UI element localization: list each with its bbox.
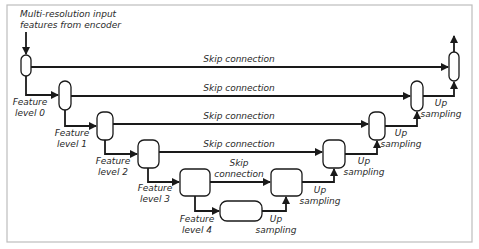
- upsample-arrow-2: [345, 141, 377, 154]
- feature-level-2-line2: level 2: [98, 167, 128, 177]
- feature-level-2-line1: Feature: [96, 156, 131, 166]
- feature-level-1-line1: Feature: [55, 128, 90, 138]
- feature-level-1-node: [97, 112, 113, 140]
- upsampling-3-line1: Up: [314, 185, 327, 195]
- skip-label-3: Skip connection: [203, 139, 275, 149]
- feature-level-3-line2: level 3: [140, 194, 170, 204]
- upsampling-2-line2: sampling: [343, 167, 384, 177]
- skip-label-2: Skip connection: [203, 111, 275, 121]
- feature-level-0-line2: level 0: [15, 108, 45, 118]
- upsampling-0-line1: Up: [435, 98, 448, 108]
- upsample-arrow-4: [262, 197, 286, 211]
- decoder-node-2: [323, 140, 345, 168]
- feature-level-0-node: [59, 81, 71, 110]
- down-arrow-2: [105, 140, 137, 154]
- feature-level-4-line1: Feature: [180, 214, 215, 224]
- upsampling-4-line2: sampling: [255, 225, 296, 235]
- upsampling-1-line2: sampling: [380, 139, 421, 149]
- feature-level-4-node: [220, 201, 262, 221]
- decoder-node-3: [271, 169, 302, 196]
- skip-label-1: Skip connection: [203, 83, 275, 93]
- unet-decoder-diagram: Multi-resolution input features from enc…: [0, 0, 479, 249]
- input-label-line2: features from encoder: [20, 20, 122, 30]
- down-arrow-1: [65, 110, 96, 126]
- upsampling-1-line1: Up: [395, 128, 408, 138]
- feature-level-1-line2: level 1: [57, 139, 87, 149]
- upsampling-0-line2: sampling: [420, 109, 461, 119]
- output-node: [449, 52, 459, 81]
- upsample-arrow-3: [302, 169, 334, 182]
- down-arrow-0: [26, 76, 58, 95]
- down-arrow-3: [148, 168, 179, 182]
- upsampling-2-line1: Up: [358, 156, 371, 166]
- upsample-arrow-0: [423, 82, 454, 96]
- encoder-input-node: [21, 55, 31, 76]
- input-label-line1: Multi-resolution input: [20, 9, 117, 19]
- upsampling-3-line2: sampling: [299, 196, 340, 206]
- feature-level-4-line2: level 4: [182, 225, 212, 235]
- feature-level-2-node: [138, 140, 159, 168]
- skip-label-4-line2: connection: [214, 169, 264, 179]
- skip-label-4-line1: Skip: [229, 158, 248, 168]
- upsample-arrow-1: [385, 112, 417, 126]
- decoder-node-1: [369, 112, 385, 140]
- feature-level-3-node: [180, 169, 210, 196]
- skip-label-0: Skip connection: [203, 54, 275, 64]
- down-arrow-4: [195, 196, 219, 211]
- decoder-node-0: [411, 81, 423, 111]
- feature-level-3-line1: Feature: [138, 183, 173, 193]
- upsampling-4-line1: Up: [270, 214, 283, 224]
- feature-level-0-line1: Feature: [13, 97, 48, 107]
